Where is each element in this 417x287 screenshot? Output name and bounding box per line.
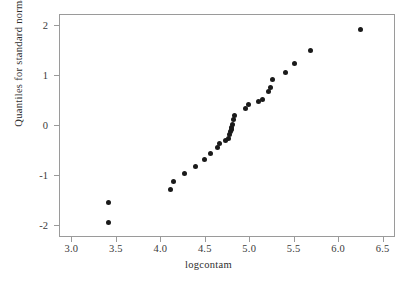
data-point [308,48,313,53]
x-tick-mark [116,237,117,242]
x-tick-mark [249,237,250,242]
data-point [270,77,275,82]
y-tick-label: 2 [26,19,48,30]
data-point [268,85,273,90]
data-point [283,70,288,75]
y-tick-mark [54,225,59,226]
x-tick-label: 3.0 [65,243,79,254]
x-tick-mark [71,237,72,242]
data-point [182,171,187,176]
y-tick-label: -1 [26,169,48,180]
data-point [266,89,271,94]
data-point [230,122,235,127]
data-point [193,164,198,169]
data-point [208,151,213,156]
qq-plot-figure: 3.03.54.04.55.05.56.06.5 210-1-2 logcont… [0,0,417,287]
y-axis-label: Quantiles for standard normal [13,0,24,160]
y-tick-mark [54,25,59,26]
x-tick-label: 5.0 [242,243,256,254]
x-tick-mark [205,237,206,242]
x-tick-mark [294,237,295,242]
plot-frame [59,14,395,237]
x-tick-label: 5.5 [287,243,301,254]
y-tick-label: 1 [26,69,48,80]
data-point [171,179,176,184]
x-tick-label: 4.0 [153,243,167,254]
data-point [358,27,363,32]
x-tick-label: 3.5 [109,243,123,254]
y-tick-label: 0 [26,119,48,130]
x-axis-label: logcontam [0,259,417,270]
data-point [232,113,237,118]
data-point [246,102,251,107]
y-tick-mark [54,125,59,126]
x-tick-label: 6.0 [331,243,345,254]
data-point [292,61,297,66]
x-tick-label: 4.5 [198,243,212,254]
y-tick-mark [54,75,59,76]
plot-area [60,15,394,236]
x-tick-label: 6.5 [376,243,390,254]
x-tick-mark [383,237,384,242]
data-point [202,157,207,162]
data-point [168,187,173,192]
data-point [106,200,111,205]
y-tick-mark [54,175,59,176]
data-point [106,220,111,225]
data-point [226,136,231,141]
x-tick-mark [160,237,161,242]
data-point [260,97,265,102]
data-point [217,141,222,146]
y-tick-label: -2 [26,219,48,230]
x-tick-mark [338,237,339,242]
